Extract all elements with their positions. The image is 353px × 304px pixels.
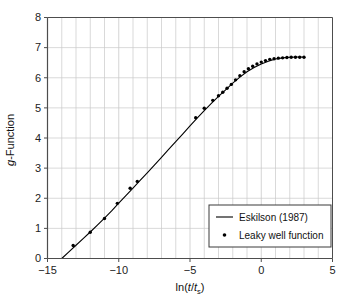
data-point xyxy=(277,56,280,59)
data-point xyxy=(272,57,275,60)
legend-label-leaky-well: Leaky well function xyxy=(239,230,324,241)
data-point xyxy=(285,56,288,59)
data-point xyxy=(298,56,301,59)
data-point xyxy=(103,217,106,220)
x-tick-label: 5 xyxy=(329,264,335,276)
y-axis-tick-labels: 012345678 xyxy=(35,11,41,264)
x-tick-label: 0 xyxy=(258,264,264,276)
x-axis-title-lead: ln( xyxy=(176,281,189,293)
data-point xyxy=(71,244,74,247)
data-point xyxy=(234,78,237,81)
data-point xyxy=(203,106,206,109)
y-axis-title-rest: -Function xyxy=(4,114,16,160)
data-point xyxy=(268,58,271,61)
data-point xyxy=(225,87,228,90)
data-point xyxy=(89,231,92,234)
x-tick-label: −5 xyxy=(184,264,197,276)
data-point xyxy=(302,56,305,59)
data-point xyxy=(281,56,284,59)
x-tick-label: −10 xyxy=(109,264,128,276)
data-point xyxy=(289,56,292,59)
data-point xyxy=(251,65,254,68)
x-axis-title-close: ) xyxy=(201,281,205,293)
y-tick-label: 3 xyxy=(35,162,41,174)
chart-legend: Eskilson (1987) Leaky well function xyxy=(209,205,331,247)
data-point xyxy=(255,62,258,65)
y-tick-label: 8 xyxy=(35,11,41,23)
data-point xyxy=(242,70,245,73)
y-axis-title: g-Function xyxy=(4,114,16,166)
data-point xyxy=(238,74,241,77)
data-point xyxy=(260,60,263,63)
data-point xyxy=(264,59,267,62)
data-point xyxy=(221,91,224,94)
data-point xyxy=(230,83,233,86)
data-point xyxy=(136,180,139,183)
y-tick-label: 7 xyxy=(35,41,41,53)
y-tick-label: 6 xyxy=(35,72,41,84)
data-point xyxy=(128,187,131,190)
data-point xyxy=(247,67,250,70)
x-tick-label: −15 xyxy=(38,264,57,276)
data-point xyxy=(294,56,297,59)
data-point xyxy=(217,94,220,97)
legend-label-eskilson: Eskilson (1987) xyxy=(239,212,308,223)
y-tick-label: 0 xyxy=(35,252,41,264)
y-tick-label: 2 xyxy=(35,192,41,204)
chart-canvas: 012345678 −15−10−505 g-Function ln(t/ts)… xyxy=(0,0,353,304)
data-point xyxy=(116,202,119,205)
chart-figure: 012345678 −15−10−505 g-Function ln(t/ts)… xyxy=(0,0,353,304)
legend-marker-dot xyxy=(223,233,227,237)
y-tick-label: 4 xyxy=(35,132,41,144)
data-point xyxy=(194,116,197,119)
data-point xyxy=(211,99,214,102)
y-tick-label: 1 xyxy=(35,222,41,234)
y-tick-label: 5 xyxy=(35,102,41,114)
